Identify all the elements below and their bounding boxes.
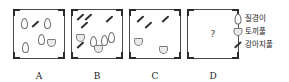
legend-label: 강아지풀 bbox=[245, 41, 273, 49]
panel-label-b: B bbox=[71, 71, 123, 81]
quadrat-panel-d: ? D bbox=[187, 9, 239, 59]
specimen-oval bbox=[21, 18, 28, 29]
specimen-stroke bbox=[84, 13, 92, 21]
specimen-layer bbox=[72, 10, 122, 58]
legend-item-plantain: 질경이 bbox=[233, 12, 289, 25]
specimen-stroke bbox=[161, 15, 169, 23]
specimen-heart bbox=[159, 46, 168, 54]
quadrat-frame bbox=[13, 9, 65, 59]
quadrat-frame bbox=[71, 9, 123, 59]
specimen-heart bbox=[47, 39, 56, 47]
specimen-stroke bbox=[76, 41, 84, 49]
specimen-stroke bbox=[136, 15, 144, 23]
specimen-stroke bbox=[144, 21, 152, 29]
legend-label: 토끼풀 bbox=[245, 28, 266, 36]
specimen-stroke bbox=[31, 20, 39, 28]
specimen-stroke bbox=[105, 15, 113, 23]
panel-label-c: C bbox=[129, 71, 181, 81]
specimen-layer bbox=[130, 10, 180, 58]
quadrat-frame: ? bbox=[187, 9, 239, 59]
quadrat-panel-c: C bbox=[129, 9, 181, 59]
specimen-stroke bbox=[76, 13, 84, 21]
panel-label-d: D bbox=[187, 71, 239, 81]
legend: 질경이 토끼풀 강아지풀 bbox=[233, 12, 289, 51]
specimen-heart bbox=[134, 38, 143, 46]
quadrat-figure: A B C ? D bbox=[0, 0, 289, 82]
specimen-oval bbox=[22, 42, 29, 53]
panel-label-a: A bbox=[13, 71, 65, 81]
legend-label: 질경이 bbox=[245, 15, 266, 23]
specimen-oval bbox=[38, 34, 45, 45]
specimen-oval bbox=[44, 18, 51, 29]
oval-leaf-icon bbox=[233, 13, 243, 24]
unknown-marker: ? bbox=[188, 29, 238, 39]
quadrat-frame bbox=[129, 9, 181, 59]
specimen-heart bbox=[76, 34, 85, 42]
specimen-oval bbox=[108, 32, 115, 43]
legend-item-foxtail: 강아지풀 bbox=[233, 38, 289, 51]
heart-leaf-icon bbox=[233, 26, 243, 37]
specimen-stroke bbox=[80, 21, 88, 29]
legend-item-clover: 토끼풀 bbox=[233, 25, 289, 38]
specimen-layer bbox=[14, 10, 64, 58]
quadrat-panel-a: A bbox=[13, 9, 65, 59]
quadrat-panel-b: B bbox=[71, 9, 123, 59]
stroke-icon bbox=[233, 39, 243, 50]
specimen-heart bbox=[94, 45, 103, 53]
